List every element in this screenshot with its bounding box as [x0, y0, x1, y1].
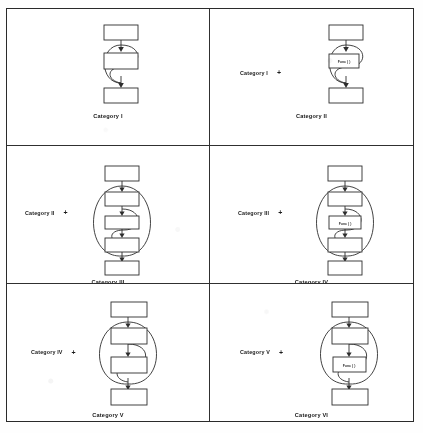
panel-5-operand-label: Category IV [31, 349, 63, 355]
panel-3-operand-label: Category II [25, 210, 55, 216]
panel-2-diagram: Func ( ) [310, 23, 382, 105]
panel-2-caption: Category II [210, 113, 413, 119]
panel-6-caption: Category VI [210, 412, 413, 418]
panel-2: Category I + [210, 9, 413, 146]
panel-grid: Category I Category I + [7, 9, 413, 421]
figure-page: Category I Category I + [0, 0, 423, 433]
panel-3: Category II + [7, 146, 210, 283]
panel-4-operand-label: Category III [238, 210, 269, 216]
panel-3-plus-sign: + [64, 209, 68, 216]
panel-3-diagram [79, 164, 165, 276]
panel-2-operand-label: Category I [240, 70, 268, 76]
panel-5-plus-sign: + [72, 349, 76, 356]
panel-2-func-label: Func ( ) [338, 60, 351, 64]
panel-4-operand: Category III + [238, 209, 282, 216]
panel-5-caption: Category V [7, 412, 209, 418]
panel-6-diagram: Func ( ) [306, 300, 392, 408]
panel-5-operand: Category IV + [31, 349, 76, 356]
panel-6-operand: Category V + [240, 349, 283, 356]
panel-2-plus-sign: + [277, 69, 281, 76]
panel-1-diagram [85, 23, 157, 105]
panel-1: Category I [7, 9, 210, 146]
panel-4-diagram: Func ( ) [302, 164, 388, 276]
panel-4-plus-sign: + [278, 209, 282, 216]
panel-6-func-label: Func ( ) [343, 363, 356, 367]
panel-6-operand-label: Category V [240, 349, 270, 355]
panel-6: Category V + [210, 284, 413, 421]
panel-3-operand: Category II + [25, 209, 68, 216]
panel-5-diagram [85, 300, 171, 408]
panel-5: Category IV + [7, 284, 210, 421]
panel-4: Category III + [210, 146, 413, 283]
panel-4-func-label: Func ( ) [339, 222, 352, 226]
figure-outer-border: Category I Category I + [6, 8, 414, 422]
panel-2-operand: Category I + [240, 69, 281, 76]
panel-1-caption: Category I [7, 113, 209, 119]
panel-6-plus-sign: + [279, 349, 283, 356]
